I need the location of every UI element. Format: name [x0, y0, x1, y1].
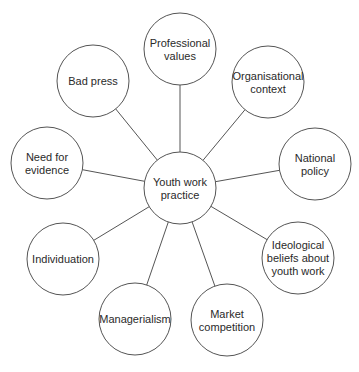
node-ideological-beliefs-label-line: beliefs about	[267, 252, 329, 264]
node-market-competition-label-line: Market	[210, 308, 244, 320]
node-youth-work-practice-label-line: Youth work	[153, 176, 208, 188]
node-youth-work-practice: Youth workpractice	[144, 152, 216, 224]
node-ideological-beliefs-label-line: youth work	[271, 265, 325, 277]
connector-ideological-beliefs	[211, 206, 267, 239]
node-national-policy-label-line: policy	[301, 165, 330, 177]
hub-spoke-diagram: Youth workpracticeProfessionalvaluesOrga…	[0, 0, 359, 372]
node-organisational-context: Organisationalcontext	[232, 46, 304, 118]
connector-need-for-evidence	[82, 170, 144, 182]
node-market-competition: Marketcompetition	[191, 284, 263, 356]
connector-market-competition	[192, 222, 215, 286]
node-individuation: Individuation	[27, 223, 99, 295]
node-bad-press: Bad press	[57, 45, 129, 117]
node-individuation-label-line: Individuation	[32, 253, 94, 265]
node-national-policy: Nationalpolicy	[279, 128, 351, 200]
node-need-for-evidence-label-line: Need for	[26, 151, 69, 163]
node-professional-values: Professionalvalues	[144, 13, 216, 85]
connector-bad-press	[116, 109, 158, 160]
node-managerialism-label-line: Managerialism	[99, 313, 171, 325]
node-need-for-evidence-label-line: evidence	[25, 164, 69, 176]
node-organisational-context-label-line: context	[250, 83, 285, 95]
connector-individuation	[94, 207, 149, 241]
node-managerialism: Managerialism	[99, 283, 171, 355]
node-professional-values-label-line: values	[164, 50, 196, 62]
connector-national-policy	[215, 170, 279, 181]
node-need-for-evidence: Need forevidence	[11, 127, 83, 199]
connector-managerialism	[147, 222, 169, 285]
node-bad-press-label-line: Bad press	[68, 75, 118, 87]
node-ideological-beliefs: Ideologicalbeliefs aboutyouth work	[262, 222, 334, 294]
node-organisational-context-label-line: Organisational	[233, 70, 304, 82]
node-market-competition-label-line: competition	[199, 321, 255, 333]
node-youth-work-practice-label-line: practice	[161, 189, 200, 201]
diagram-canvas: Youth workpracticeProfessionalvaluesOrga…	[0, 0, 359, 372]
node-national-policy-label-line: National	[295, 152, 335, 164]
connector-organisational-context	[203, 110, 245, 161]
node-ideological-beliefs-label-line: Ideological	[272, 239, 325, 251]
node-professional-values-label-line: Professional	[150, 37, 211, 49]
diagram-nodes: Youth workpracticeProfessionalvaluesOrga…	[11, 13, 351, 356]
